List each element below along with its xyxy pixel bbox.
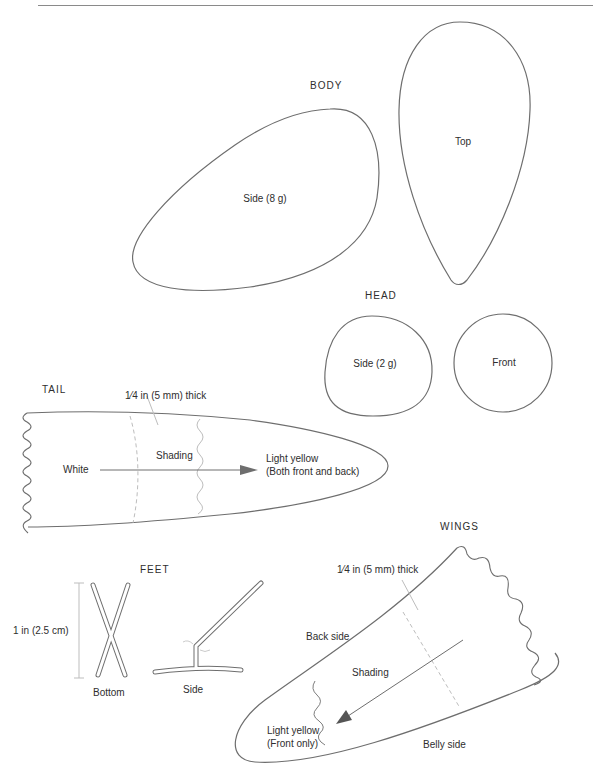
- body-top-shape: [399, 22, 530, 285]
- feet-heading: FEET: [140, 564, 170, 575]
- tail-shading-label: Shading: [156, 449, 193, 462]
- wings-belly-side-label: Belly side: [423, 738, 466, 751]
- feet-side-label: Side: [183, 683, 203, 696]
- wings-back-side-label: Back side: [306, 630, 349, 643]
- wings-heading: WINGS: [440, 521, 479, 532]
- wings-shading-label: Shading: [352, 666, 389, 679]
- tail-light-yellow-line1: Light yellow: [266, 452, 359, 465]
- tail-heading: TAIL: [42, 384, 66, 395]
- feet-bottom-label: Bottom: [93, 686, 125, 699]
- wings-thickness-note: 1⁄4 in (5 mm) thick: [337, 563, 418, 576]
- pattern-artwork: [0, 0, 593, 782]
- body-heading: BODY: [310, 80, 342, 91]
- tail-light-yellow-label: Light yellow (Both front and back): [266, 452, 359, 478]
- tail-thickness-note: 1⁄4 in (5 mm) thick: [125, 389, 206, 402]
- wings-light-yellow-line1: Light yellow: [267, 724, 319, 737]
- wings-light-yellow-line2: (Front only): [267, 737, 319, 750]
- head-front-label: Front: [492, 356, 515, 369]
- feet-bottom-shape: [74, 583, 128, 678]
- body-side-label: Side (8 g): [243, 192, 286, 205]
- tail-light-yellow-line2: (Both front and back): [266, 465, 359, 478]
- wings-light-yellow-label: Light yellow (Front only): [267, 724, 319, 750]
- body-top-label: Top: [455, 135, 471, 148]
- feet-side-shape: [155, 583, 261, 672]
- tail-white-label: White: [63, 463, 89, 476]
- head-side-label: Side (2 g): [353, 357, 396, 370]
- feet-dimension-label: 1 in (2.5 cm): [13, 624, 69, 637]
- head-heading: HEAD: [365, 290, 397, 301]
